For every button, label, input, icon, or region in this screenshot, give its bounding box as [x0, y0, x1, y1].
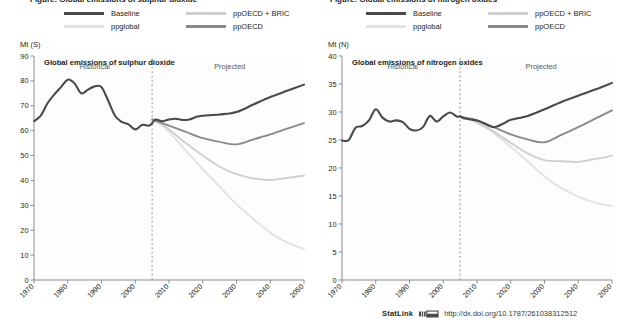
statlink-barcode-icon — [419, 310, 439, 318]
x-axis-tick-label: 1980 — [359, 282, 377, 300]
y-axis-tick-label: 30 — [328, 108, 336, 117]
legend-swatch-baseline — [64, 12, 104, 15]
y-axis-tick-label: 40 — [328, 52, 336, 61]
statlink-label: StatLink — [382, 309, 413, 318]
statlink-url: http://dx.doi.org/10.1787/261038312512 — [444, 309, 577, 318]
legend-swatch-ppoecd — [488, 25, 528, 28]
legend-swatch-ppoecd — [186, 25, 226, 28]
x-axis-tick-label: 1970 — [326, 282, 344, 300]
legend-item-ppglobal: ppglobal — [366, 22, 441, 31]
y-axis-tick-label: 35 — [328, 80, 336, 89]
y-axis-tick-label: 10 — [20, 251, 28, 260]
legend-left: Baseline ppglobal ppOECD + BRIC ppOECD — [18, 9, 308, 35]
legend-label-ppglobal: ppglobal — [111, 22, 139, 31]
cropped-title-left: Figure: Global emissions of sulphur diox… — [30, 0, 197, 4]
chart-canvas-sulphur-dioxide: 0102030405060708090197019801990200020102… — [8, 40, 308, 325]
y-axis-tick-label: 90 — [20, 52, 28, 61]
x-axis-tick-label: 2030 — [220, 282, 238, 300]
y-axis-tick-label: 30 — [20, 201, 28, 210]
legend-swatch-ppglobal — [366, 25, 406, 28]
y-axis-tick-label: 60 — [20, 126, 28, 135]
legend-label-ppoecd-bric: ppOECD + BRIC — [535, 9, 591, 18]
legend-label-baseline: Baseline — [111, 9, 140, 18]
x-axis-tick-label: 2020 — [186, 282, 204, 300]
y-axis-tick-label: 25 — [328, 136, 336, 145]
y-axis-tick-label: 50 — [20, 151, 28, 160]
x-axis-tick-label: 2000 — [427, 282, 445, 300]
band-annotation: Projected — [526, 62, 557, 71]
x-axis-tick-label: 2030 — [528, 282, 546, 300]
chart-sulphur-dioxide: Mt (S) 010203040506070809019701980199020… — [8, 40, 308, 325]
x-axis-tick-label: 1990 — [393, 282, 411, 300]
y-axis-tick-label: 5 — [332, 248, 336, 257]
x-axis-tick-label: 2040 — [562, 282, 580, 300]
y-axis-tick-label: 20 — [328, 164, 336, 173]
chart-nitrogen-oxides: Mt (N) 051015202530354019701980199020002… — [316, 40, 616, 325]
legend-label-ppoecd-bric: ppOECD + BRIC — [233, 9, 289, 18]
band-annotation: Historical — [388, 62, 419, 71]
legend-item-baseline: Baseline — [366, 9, 442, 18]
legend-swatch-ppoecd-bric — [488, 12, 528, 15]
legend-right: Baseline ppglobal ppOECD + BRIC ppOECD — [320, 9, 610, 35]
legend-label-baseline: Baseline — [413, 9, 442, 18]
y-axis-tick-label: 10 — [328, 220, 336, 229]
legend-swatch-ppglobal — [64, 25, 104, 28]
band-annotation: Projected — [214, 62, 245, 71]
x-axis-tick-label: 1990 — [85, 282, 103, 300]
statlink: StatLink http://dx.doi.org/10.1787/26103… — [382, 309, 577, 318]
legend-item-ppglobal: ppglobal — [64, 22, 139, 31]
y-axis-tick-label: 20 — [20, 226, 28, 235]
y-axis-tick-label: 15 — [328, 192, 336, 201]
x-axis-tick-label: 2000 — [119, 282, 137, 300]
legend-item-ppoecd-bric: ppOECD + BRIC — [488, 9, 591, 18]
chart-canvas-nitrogen-oxides: 0510152025303540197019801990200020102020… — [316, 40, 616, 325]
x-axis-tick-label: 2040 — [254, 282, 272, 300]
legend-item-baseline: Baseline — [64, 9, 140, 18]
x-axis-tick-label: 1980 — [51, 282, 69, 300]
legend-label-ppoecd: ppOECD — [233, 22, 263, 31]
x-axis-tick-label: 2050 — [596, 282, 614, 300]
legend-item-ppoecd: ppOECD — [488, 22, 565, 31]
legend-swatch-baseline — [366, 12, 406, 15]
y-axis-tick-label: 70 — [20, 101, 28, 110]
x-axis-tick-label: 2010 — [461, 282, 479, 300]
y-axis-tick-label: 40 — [20, 176, 28, 185]
legend-item-ppoecd-bric: ppOECD + BRIC — [186, 9, 289, 18]
legend-swatch-ppoecd-bric — [186, 12, 226, 15]
cropped-title-strip: Figure: Global emissions of sulphur diox… — [0, 0, 631, 5]
emissions-figure: Figure: Global emissions of sulphur diox… — [0, 0, 631, 327]
legend-item-ppoecd: ppOECD — [186, 22, 263, 31]
x-axis-tick-label: 2050 — [288, 282, 306, 300]
x-axis-tick-label: 2010 — [153, 282, 171, 300]
band-annotation: Historical — [80, 62, 111, 71]
x-axis-tick-label: 1970 — [18, 282, 36, 300]
legend-label-ppglobal: ppglobal — [413, 22, 441, 31]
legend-label-ppoecd: ppOECD — [535, 22, 565, 31]
x-axis-tick-label: 2020 — [494, 282, 512, 300]
y-axis-tick-label: 80 — [20, 76, 28, 85]
cropped-title-right: Figure: Global emissions of nitrogen oxi… — [330, 0, 497, 4]
